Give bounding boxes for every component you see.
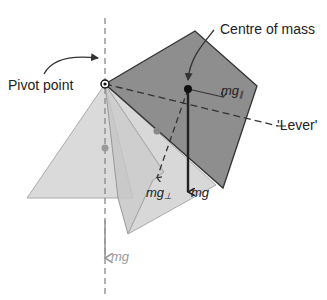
mg-label: mg	[191, 185, 210, 200]
pivot-centre-dot	[103, 82, 106, 85]
rest-centre-of-mass-dot	[102, 145, 109, 152]
centre-of-mass-label: Centre of mass	[220, 21, 315, 37]
lever-label: 'Lever'	[277, 117, 317, 133]
pivot-pointer-arrow	[44, 57, 98, 74]
light-mg-label: mg	[111, 249, 130, 264]
pivot-point-label: Pivot point	[8, 77, 73, 93]
centre-of-mass-dot	[184, 85, 192, 93]
intermediate-centre-of-mass-dot	[154, 128, 161, 135]
pendulum-diagram: Pivot point Centre of mass 'Lever' mg∥ m…	[0, 0, 327, 300]
